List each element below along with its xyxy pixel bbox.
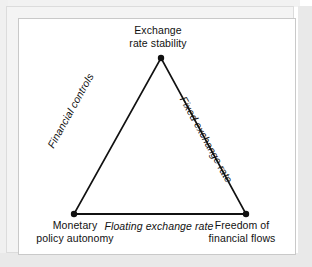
vertex-dot-top xyxy=(158,55,164,61)
vertex-dot-bottom-left xyxy=(71,211,77,217)
edge-label-floating-exchange-rate: Floating exchange rate xyxy=(98,220,220,232)
paper-edge-right xyxy=(298,6,312,267)
vertex-label-exchange-rate-stability: Exchange rate stability xyxy=(108,24,208,49)
figure-page: Exchange rate stability Monetary policy … xyxy=(0,0,312,267)
figure-frame: Exchange rate stability Monetary policy … xyxy=(6,6,294,253)
figure-panel: Exchange rate stability Monetary policy … xyxy=(18,18,296,255)
vertex-dot-bottom-right xyxy=(243,211,249,217)
paper-edge-bottom xyxy=(0,253,312,267)
